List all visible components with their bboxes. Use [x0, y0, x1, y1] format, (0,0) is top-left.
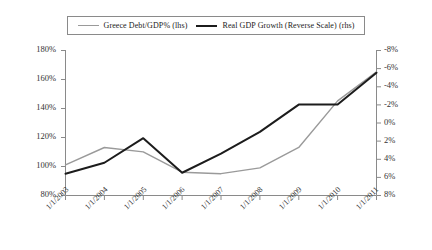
- left-axis-tick-160: 160%: [22, 74, 56, 83]
- right-axis-tick-6: 6%: [384, 172, 418, 181]
- right-axis-tick-4: 4%: [384, 154, 418, 163]
- right-axis-tick-0: 0%: [384, 118, 418, 127]
- left-axis-tick-100: 100%: [22, 161, 56, 170]
- right-axis-tick-neg2: -2%: [384, 100, 418, 109]
- left-axis-tick-140: 140%: [22, 103, 56, 112]
- right-axis-tick-2: 2%: [384, 136, 418, 145]
- chart-container: Greece Debt/GDP% (lhs) Real GDP Growth (…: [0, 0, 432, 250]
- right-axis-tick-neg8: -8%: [384, 45, 418, 54]
- series-line-gdp-growth: [66, 73, 377, 174]
- right-axis-tick-neg4: -4%: [384, 81, 418, 90]
- plot-area: [0, 0, 432, 250]
- left-axis-tick-180: 180%: [22, 45, 56, 54]
- right-axis-tick-8: 8%: [384, 190, 418, 199]
- right-axis-tick-neg6: -6%: [384, 63, 418, 72]
- left-axis-tick-120: 120%: [22, 132, 56, 141]
